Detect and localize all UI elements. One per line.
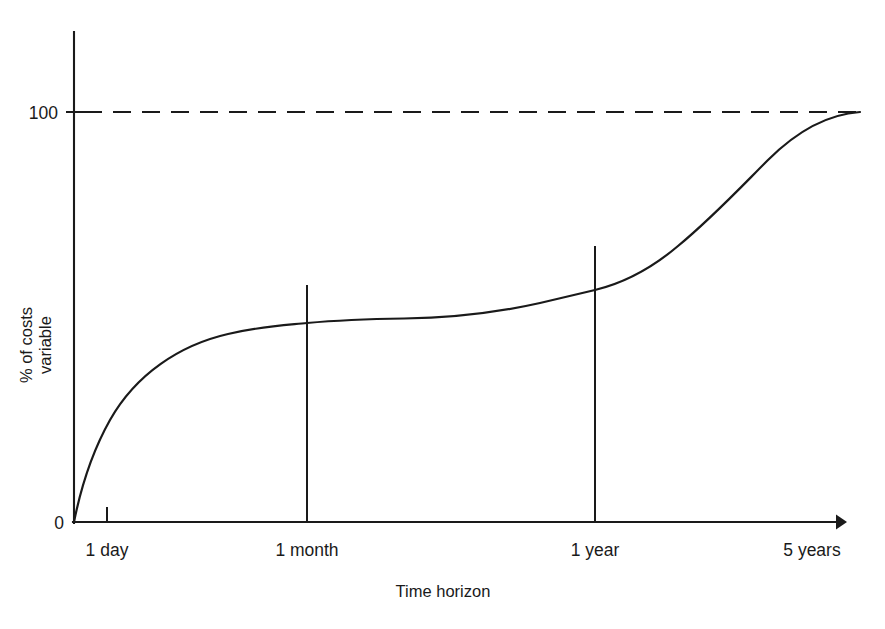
y-axis-label-line1: % of costs [17,307,35,383]
cost-variability-curve [74,112,860,522]
chart-figure: 100 0 % of costs variable 1 day 1 month … [0,0,885,629]
chart-canvas: 100 0 % of costs variable 1 day 1 month … [0,0,885,629]
x-axis-title: Time horizon [396,582,491,600]
y-axis-label-line2: variable [36,316,54,374]
x-tick-label-1-year: 1 year [571,540,620,560]
x-axis-arrow-icon [836,515,847,530]
x-tick-label-1-month: 1 month [275,540,338,560]
x-tick-label-1-day: 1 day [86,540,129,560]
x-tick-label-5-years: 5 years [783,540,841,560]
y-tick-label-0: 0 [54,513,64,533]
y-tick-label-100: 100 [29,103,58,123]
